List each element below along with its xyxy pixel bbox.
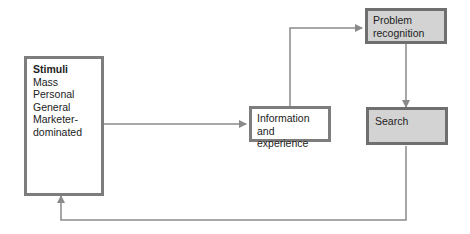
experience-label: experience (257, 137, 323, 150)
stimuli-item: General (33, 101, 95, 114)
stimuli-item: Marketer- (33, 113, 95, 126)
problem-recognition-box: Problem recognition (365, 8, 447, 44)
information-label: Information and (257, 112, 323, 137)
search-label: Search (375, 115, 439, 128)
recognition-label: recognition (373, 27, 439, 40)
stimuli-box: Stimuli Mass Personal General Marketer- … (24, 56, 104, 196)
stimuli-item: Mass (33, 76, 95, 89)
search-box: Search (366, 107, 448, 145)
stimuli-item: Personal (33, 88, 95, 101)
stimuli-title: Stimuli (33, 63, 95, 76)
information-experience-box: Information and experience (249, 106, 331, 142)
stimuli-item: dominated (33, 126, 95, 139)
problem-label: Problem (373, 14, 439, 27)
